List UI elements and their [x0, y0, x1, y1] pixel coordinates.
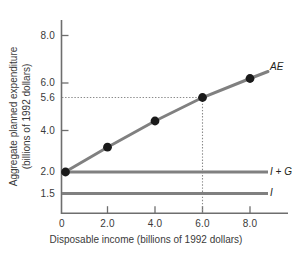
chart-figure: 8.0 6.0 5.6 4.0 2.0 1.5 0 2.0 4.0 6.0 8.… — [0, 0, 292, 258]
x-tick-label-2-0: 2.0 — [93, 219, 123, 229]
series-line-ae — [65, 72, 268, 173]
x-tick-label-8-0: 8.0 — [235, 219, 265, 229]
series-label-i-plus-g: I + G — [270, 167, 292, 177]
x-axis-ticks — [108, 206, 251, 213]
y-axis-title: Aggregate planned expenditure (billions … — [8, 17, 33, 217]
x-axis-title: Disposable income (billions of 1992 doll… — [0, 234, 292, 247]
x-tick-label-0: 0 — [47, 219, 77, 229]
y-axis-title-line-2: (billions of 1992 dollars) — [20, 17, 33, 217]
y-axis-title-line-1: Aggregate planned expenditure — [8, 17, 21, 217]
data-point-ae-4 — [246, 74, 255, 83]
data-point-ae-2 — [151, 117, 160, 126]
data-point-ae-1 — [103, 143, 112, 152]
series-label-ae: AE — [270, 62, 283, 72]
x-tick-label-4-0: 4.0 — [140, 219, 170, 229]
data-point-ae-3 — [198, 93, 207, 102]
x-tick-label-6-0: 6.0 — [188, 219, 218, 229]
series-label-i: I — [270, 188, 273, 198]
data-point-ae-0 — [61, 168, 70, 177]
